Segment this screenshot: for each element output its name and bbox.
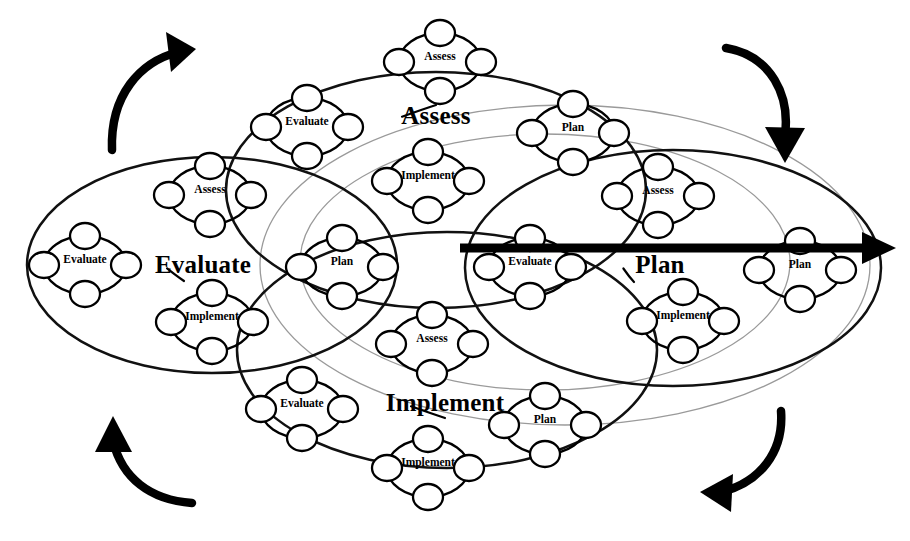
- node-bottom: [195, 211, 225, 237]
- major-cycle-label-plan: Plan: [635, 251, 684, 278]
- node-right: [458, 331, 488, 357]
- rotation-arrowhead-icon-top-left: [166, 32, 196, 72]
- node-bottom: [327, 283, 357, 309]
- node-left: [372, 168, 402, 194]
- node-right: [599, 120, 629, 146]
- node-left: [744, 257, 774, 283]
- node-left: [376, 331, 406, 357]
- cycle-unit-evaluate-assess[interactable]: Assess: [154, 153, 266, 237]
- cycle-unit-label: Implement: [401, 456, 455, 469]
- cycle-unit-plan-evaluate[interactable]: Evaluate: [474, 225, 586, 309]
- node-left: [489, 412, 519, 438]
- cycle-unit-label: Assess: [416, 332, 448, 344]
- sub-cycle-units: AssessPlanImplementEvaluateAssessPlanImp…: [29, 20, 856, 510]
- rotation-arrowhead-icon-top-right: [765, 127, 805, 163]
- node-top: [530, 383, 560, 409]
- cycle-unit-assess-implement[interactable]: Implement: [372, 139, 484, 223]
- node-top: [413, 426, 443, 452]
- node-top: [558, 91, 588, 117]
- node-right: [556, 254, 586, 280]
- node-bottom: [292, 143, 322, 169]
- cycle-unit-label: Plan: [789, 258, 812, 270]
- node-top: [327, 225, 357, 251]
- node-bottom: [287, 425, 317, 451]
- node-top: [70, 223, 100, 249]
- rotation-arrowhead-icon-bottom-left: [95, 416, 132, 452]
- node-bottom: [70, 281, 100, 307]
- node-left: [156, 309, 186, 335]
- major-cycle-label-implement: Implement: [386, 389, 505, 416]
- diagram-canvas: AssessPlanImplementEvaluateAssessPlanImp…: [0, 0, 910, 541]
- node-left: [246, 396, 276, 422]
- node-left: [251, 114, 281, 140]
- node-right: [709, 308, 739, 334]
- node-right: [238, 309, 268, 335]
- node-bottom: [643, 212, 673, 238]
- cycle-unit-label: Plan: [534, 413, 557, 425]
- major-cycle-label-assess: Assess: [401, 102, 470, 129]
- cycle-unit-assess-plan[interactable]: Plan: [517, 91, 629, 175]
- cycle-unit-label: Assess: [424, 50, 456, 62]
- node-top: [292, 85, 322, 111]
- cycle-unit-label: Implement: [401, 169, 455, 182]
- node-top: [413, 139, 443, 165]
- cycle-unit-plan-plan[interactable]: Plan: [744, 228, 856, 312]
- label-connector-plan: [623, 269, 634, 283]
- node-right: [684, 183, 714, 209]
- node-right: [454, 455, 484, 481]
- node-bottom: [413, 484, 443, 510]
- node-left: [154, 182, 184, 208]
- node-bottom: [530, 441, 560, 467]
- plan-axis-arrowhead-icon: [862, 232, 896, 264]
- node-top: [417, 302, 447, 328]
- node-left: [29, 252, 59, 278]
- node-top: [643, 154, 673, 180]
- node-bottom: [785, 286, 815, 312]
- node-bottom: [515, 283, 545, 309]
- cycle-unit-label: Plan: [562, 121, 585, 133]
- major-cycle-label-evaluate: Evaluate: [155, 251, 251, 278]
- node-bottom: [197, 338, 227, 364]
- node-right: [111, 252, 141, 278]
- cycle-unit-implement-evaluate[interactable]: Evaluate: [246, 367, 358, 451]
- node-right: [826, 257, 856, 283]
- rotation-arrowhead-icon-bottom-right: [700, 474, 733, 512]
- cycle-unit-label: Implement: [185, 310, 239, 323]
- node-left: [627, 308, 657, 334]
- node-top: [197, 280, 227, 306]
- cycle-unit-label: Evaluate: [285, 115, 328, 127]
- node-right: [328, 396, 358, 422]
- cycle-unit-label: Implement: [656, 309, 710, 322]
- node-left: [602, 183, 632, 209]
- node-left: [286, 254, 316, 280]
- cycle-unit-implement-assess[interactable]: Assess: [376, 302, 488, 386]
- node-left: [474, 254, 504, 280]
- node-right: [454, 168, 484, 194]
- node-left: [372, 455, 402, 481]
- cycle-unit-label: Plan: [331, 255, 354, 267]
- node-top: [668, 279, 698, 305]
- cycle-unit-assess-evaluate[interactable]: Evaluate: [251, 85, 363, 169]
- rotation-arrow-top-left: [112, 52, 178, 150]
- node-right: [368, 254, 398, 280]
- cycle-unit-label: Evaluate: [63, 253, 106, 265]
- rotation-arrow-top-right: [726, 48, 786, 135]
- cycle-unit-evaluate-implement[interactable]: Implement: [156, 280, 268, 364]
- node-right: [333, 114, 363, 140]
- node-bottom: [558, 149, 588, 175]
- node-bottom: [668, 337, 698, 363]
- node-right: [236, 182, 266, 208]
- fractal-cycle-diagram: AssessPlanImplementEvaluateAssessPlanImp…: [0, 0, 910, 541]
- node-right: [466, 49, 496, 75]
- node-bottom: [413, 197, 443, 223]
- cycle-unit-evaluate-evaluate[interactable]: Evaluate: [29, 223, 141, 307]
- node-right: [571, 412, 601, 438]
- node-left: [517, 120, 547, 146]
- cycle-unit-label: Evaluate: [280, 397, 323, 409]
- cycle-unit-label: Assess: [194, 183, 226, 195]
- node-top: [425, 20, 455, 46]
- cycle-unit-plan-assess[interactable]: Assess: [602, 154, 714, 238]
- node-top: [195, 153, 225, 179]
- node-bottom: [417, 360, 447, 386]
- cycle-unit-assess-assess[interactable]: Assess: [384, 20, 496, 104]
